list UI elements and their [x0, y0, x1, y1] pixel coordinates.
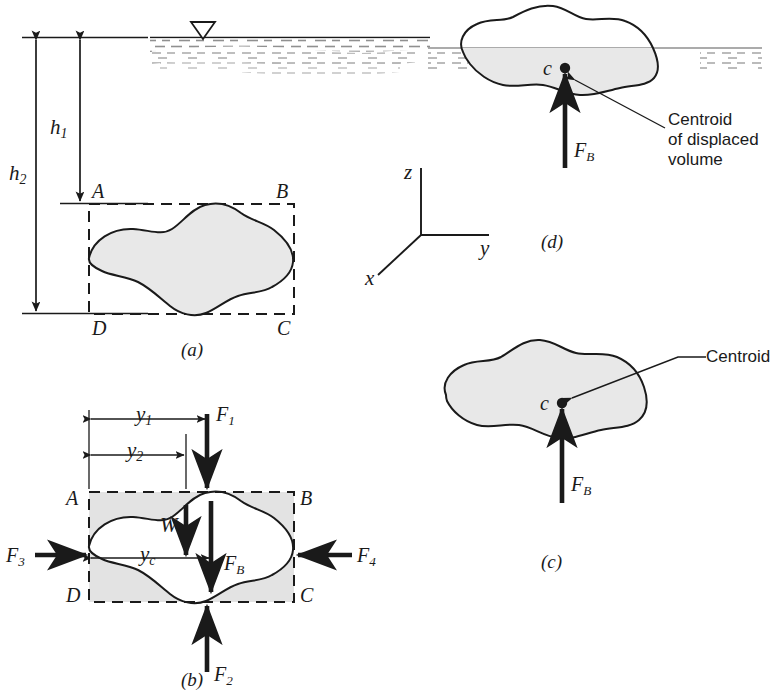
- coordinate-axes: [378, 168, 489, 275]
- axis-x: [378, 235, 421, 275]
- centroid-dot-d: [560, 63, 570, 73]
- water-hatching: [150, 39, 430, 76]
- panel-caption-c: (c): [541, 552, 562, 571]
- axis-label-x: x: [365, 268, 374, 289]
- panel-caption-d: (d): [541, 232, 563, 251]
- force-label-F4: F4: [357, 545, 376, 568]
- annotation-line-2: of displaced: [668, 130, 760, 150]
- centroid-label-c: c: [540, 393, 549, 413]
- force-label-FB-b: FB: [224, 553, 244, 576]
- dimension-label-h2: h2: [9, 163, 26, 187]
- force-label-F2: F2: [214, 664, 233, 687]
- force-label-W: W: [160, 515, 178, 536]
- annotation-line-1: Centroid: [668, 110, 760, 130]
- corner-label-a-D: D: [92, 318, 106, 338]
- annotation-line-3: volume: [668, 150, 760, 170]
- corner-label-b-A: A: [66, 488, 78, 508]
- free-surface-triangle-icon: [191, 22, 215, 39]
- force-label-F3: F3: [6, 545, 25, 568]
- panel-b: [35, 410, 352, 672]
- dimension-label-yc: yc: [140, 544, 155, 568]
- corner-label-a-C: C: [277, 318, 290, 338]
- annotation-centroid-displaced-volume: Centroid of displaced volume: [668, 110, 760, 170]
- panel-caption-a: (a): [181, 340, 203, 359]
- annotation-centroid-c: Centroid: [706, 347, 770, 367]
- corner-label-b-C: C: [300, 585, 313, 605]
- body-outline-c: [445, 340, 647, 438]
- force-label-FB-d: FB: [574, 140, 594, 163]
- force-label-F1: F1: [216, 404, 235, 427]
- axis-label-y: y: [480, 238, 489, 259]
- dimension-label-y2: y2: [127, 440, 143, 464]
- axis-label-z: z: [404, 162, 412, 183]
- corner-label-a-B: B: [276, 181, 288, 201]
- centroid-label-d: c: [543, 58, 552, 78]
- panel-caption-b: (b): [181, 670, 203, 689]
- body-outline-a: [89, 204, 293, 316]
- centroid-dot-c: [557, 398, 567, 408]
- dimension-label-h1: h1: [50, 117, 67, 141]
- corner-label-b-D: D: [66, 585, 80, 605]
- force-label-FB-c: FB: [571, 474, 591, 497]
- dimension-label-y1: y1: [136, 404, 152, 428]
- corner-label-a-A: A: [92, 181, 104, 201]
- corner-label-b-B: B: [300, 488, 312, 508]
